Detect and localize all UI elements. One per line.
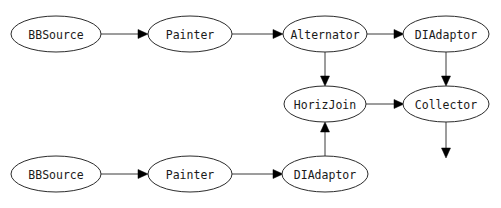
node-painter-top[interactable]: Painter	[148, 16, 232, 52]
node-bbsource-bottom[interactable]: BBSource	[11, 156, 101, 192]
dataflow-diagram: BBSource Painter Alternator DIAdaptor Ho…	[0, 0, 501, 208]
edge-alternator-to-horizjoin	[321, 52, 330, 86]
edge-alternator-to-diadaptor-top	[367, 30, 404, 39]
node-diadaptor-bottom[interactable]: DIAdaptor	[282, 156, 368, 192]
arrowhead-icon	[273, 30, 283, 39]
arrowhead-icon	[442, 76, 451, 86]
arrowhead-icon	[321, 122, 330, 132]
node-label: HorizJoin	[294, 98, 356, 112]
edge-painter-to-diadaptor-bottom	[232, 170, 283, 179]
diagram-canvas: BBSource Painter Alternator DIAdaptor Ho…	[0, 0, 501, 208]
node-label: DIAdaptor	[294, 168, 356, 182]
arrowhead-icon	[138, 170, 148, 179]
edge-bbsource-to-painter-top	[101, 30, 148, 39]
node-collector[interactable]: Collector	[403, 86, 489, 122]
arrowhead-icon	[138, 30, 148, 39]
node-layer: BBSource Painter Alternator DIAdaptor Ho…	[11, 16, 489, 192]
arrowhead-icon	[442, 148, 451, 158]
edge-diadaptor-bottom-to-horizjoin	[321, 122, 330, 156]
node-label: BBSource	[28, 168, 83, 182]
node-painter-bottom[interactable]: Painter	[148, 156, 232, 192]
edge-diadaptor-top-to-collector	[442, 52, 451, 86]
edge-painter-to-alternator	[232, 30, 283, 39]
node-label: Alternator	[290, 28, 359, 42]
edge-layer	[101, 30, 451, 179]
node-label: Collector	[415, 98, 477, 112]
edge-collector-output	[442, 122, 451, 158]
arrowhead-icon	[321, 76, 330, 86]
node-label: Painter	[166, 28, 215, 42]
node-label: BBSource	[28, 28, 83, 42]
node-label: DIAdaptor	[415, 28, 477, 42]
node-label: Painter	[166, 168, 215, 182]
node-bbsource-top[interactable]: BBSource	[11, 16, 101, 52]
node-diadaptor-top[interactable]: DIAdaptor	[403, 16, 489, 52]
node-alternator[interactable]: Alternator	[283, 16, 367, 52]
edge-horizjoin-to-collector	[366, 100, 404, 109]
node-horizjoin[interactable]: HorizJoin	[284, 86, 366, 122]
edge-bbsource-to-painter-bottom	[101, 170, 148, 179]
